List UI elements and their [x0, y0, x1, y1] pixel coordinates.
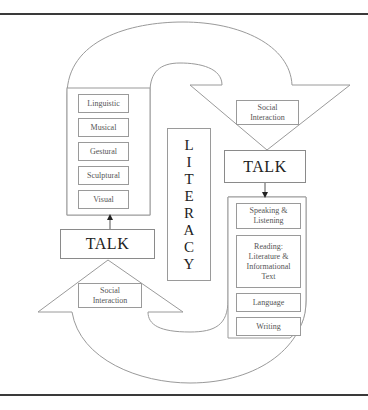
mode-label: Sculptural — [87, 171, 120, 181]
mode-linguistic: Linguistic — [78, 94, 129, 113]
talk-label: TALK — [243, 162, 286, 172]
mode-label: Gestural — [90, 147, 117, 157]
literacy-letter: L — [184, 137, 193, 154]
strand-label-line: Reading: — [254, 242, 283, 252]
literacy-letter: T — [184, 171, 193, 188]
mode-label: Musical — [91, 123, 117, 133]
social-interaction-left: Social Interaction — [78, 283, 142, 308]
strand-label-line: Informational — [247, 262, 291, 272]
strand-writing: Writing — [236, 317, 301, 336]
mode-label: Linguistic — [87, 99, 119, 109]
strand-label-line: Literature & — [249, 252, 289, 262]
literacy-letter: Y — [184, 256, 195, 273]
strand-label-line: Writing — [256, 322, 281, 332]
social-label-line1: Social — [258, 103, 278, 113]
strand-reading: Reading: Literature & Informational Text — [236, 235, 301, 288]
strand-label-line: Listening — [253, 216, 283, 226]
social-label-line1: Social — [100, 286, 120, 296]
literacy-letter: I — [187, 154, 192, 171]
mode-musical: Musical — [78, 118, 129, 137]
literacy-letter: A — [184, 222, 195, 239]
social-label-line2: Interaction — [93, 296, 128, 306]
strand-label-line: Language — [253, 298, 285, 308]
strand-label-line: Speaking & — [250, 206, 288, 216]
strand-speaking-listening: Speaking & Listening — [236, 203, 301, 229]
talk-box-right: TALK — [224, 150, 306, 183]
literacy-box: L I T E R A C Y — [167, 128, 211, 281]
literacy-letter: E — [184, 188, 193, 205]
mode-gestural: Gestural — [78, 142, 129, 161]
literacy-letter: R — [184, 205, 194, 222]
talk-label: TALK — [86, 239, 129, 249]
mode-visual: Visual — [78, 190, 129, 209]
mode-sculptural: Sculptural — [78, 166, 129, 185]
mode-label: Visual — [93, 195, 113, 205]
social-label-line2: Interaction — [250, 113, 285, 123]
strand-label-line: Text — [261, 272, 275, 282]
strand-language: Language — [236, 293, 301, 312]
literacy-letter: C — [184, 239, 194, 256]
social-interaction-right: Social Interaction — [236, 100, 299, 125]
talk-box-left: TALK — [60, 229, 155, 259]
